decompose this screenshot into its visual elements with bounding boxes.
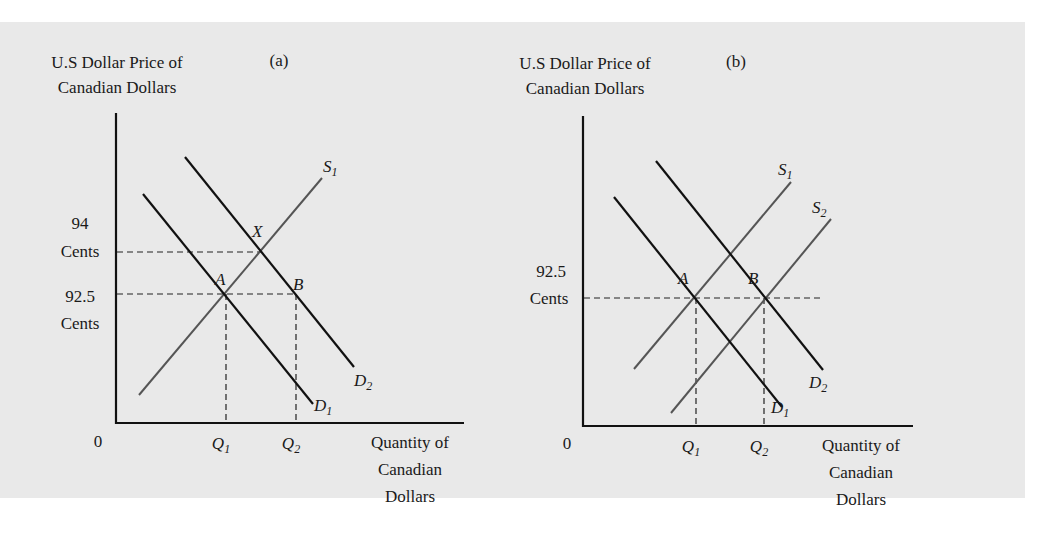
x-axis-label-line3: Dollars bbox=[836, 490, 886, 509]
point-label-x: X bbox=[251, 222, 263, 241]
curve-label-d1: D1 bbox=[770, 398, 789, 420]
point-label-a: A bbox=[214, 270, 226, 289]
y-axis-label-line2: Canadian Dollars bbox=[58, 78, 177, 97]
y-tick-92-5-unit: Cents bbox=[530, 289, 569, 308]
curve-label-s1: S1 bbox=[323, 157, 338, 179]
x-axis-label-line3: Dollars bbox=[385, 487, 435, 506]
x-tick-q1: Q1 bbox=[212, 434, 230, 456]
demand-curve-d1 bbox=[614, 197, 782, 407]
y-axis-label-line1: U.S Dollar Price of bbox=[519, 54, 651, 73]
point-label-a: A bbox=[677, 269, 689, 288]
curve-label-d1: D1 bbox=[313, 396, 332, 418]
x-tick-q2: Q2 bbox=[750, 437, 768, 459]
curve-label-d2: D2 bbox=[353, 371, 372, 393]
curve-label-s2: S2 bbox=[812, 198, 827, 220]
panel-a: U.S Dollar Price of Canadian Dollars (a)… bbox=[51, 51, 464, 506]
demand-curve-d2 bbox=[656, 161, 823, 370]
demand-curve-d1 bbox=[143, 194, 313, 404]
y-tick-92-5-unit: Cents bbox=[61, 314, 100, 333]
y-tick-94-value: 94 bbox=[72, 214, 90, 233]
curve-label-d2: D2 bbox=[808, 373, 827, 395]
panel-title: (a) bbox=[270, 51, 289, 70]
x-tick-q1: Q1 bbox=[682, 437, 700, 459]
x-axis-label-line1: Quantity of bbox=[371, 433, 449, 452]
x-axis-label-line2: Canadian bbox=[829, 463, 894, 482]
y-tick-92-5-value: 92.5 bbox=[65, 287, 95, 306]
y-tick-94-unit: Cents bbox=[61, 242, 100, 261]
panel-b: U.S Dollar Price of Canadian Dollars (b)… bbox=[519, 52, 913, 509]
curve-label-s1: S1 bbox=[778, 160, 793, 182]
panel-title: (b) bbox=[726, 52, 746, 71]
y-axis-label-line1: U.S Dollar Price of bbox=[51, 53, 183, 72]
x-axis-label-line2: Canadian bbox=[378, 460, 443, 479]
x-tick-q2: Q2 bbox=[282, 434, 300, 456]
origin-label: 0 bbox=[94, 432, 103, 451]
supply-curve-s1 bbox=[634, 182, 791, 369]
y-axis-label-line2: Canadian Dollars bbox=[526, 79, 645, 98]
y-tick-92-5-value: 92.5 bbox=[536, 262, 566, 281]
supply-curve-s2 bbox=[671, 219, 831, 413]
exchange-rate-figure: U.S Dollar Price of Canadian Dollars (a)… bbox=[0, 0, 1053, 560]
origin-label: 0 bbox=[563, 434, 572, 453]
demand-curve-d2 bbox=[185, 157, 354, 367]
point-label-b: B bbox=[748, 269, 759, 288]
x-axis-label-line1: Quantity of bbox=[822, 436, 900, 455]
point-label-b: B bbox=[293, 275, 304, 294]
